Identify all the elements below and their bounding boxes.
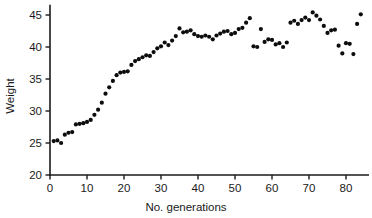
y-tick-label: 20 [29, 169, 42, 181]
data-point [351, 52, 355, 56]
data-point [244, 21, 248, 25]
data-point [126, 69, 130, 73]
x-tick-label: 80 [340, 182, 353, 194]
y-tick-label: 45 [29, 9, 42, 21]
data-point [300, 18, 304, 22]
data-point [55, 138, 59, 142]
data-point [311, 10, 315, 14]
data-point [259, 27, 263, 31]
data-point [218, 31, 222, 35]
data-point [192, 32, 196, 36]
data-point [111, 79, 115, 83]
x-tick-label: 60 [266, 182, 279, 194]
data-point [159, 44, 163, 48]
data-point [318, 17, 322, 21]
y-tick-label: 30 [29, 105, 42, 117]
data-point [322, 24, 326, 28]
data-point [211, 37, 215, 41]
data-point [337, 44, 341, 48]
data-point [307, 18, 311, 22]
data-points [52, 10, 363, 145]
data-point [251, 44, 255, 48]
data-point [285, 40, 289, 44]
x-tick-label: 70 [303, 182, 316, 194]
data-point [303, 15, 307, 19]
data-point [133, 59, 137, 63]
x-tick-label: 40 [192, 182, 205, 194]
data-point [52, 139, 56, 143]
data-point [148, 54, 152, 58]
y-tick-label: 25 [29, 137, 42, 149]
data-point [189, 28, 193, 32]
x-tick-label: 10 [81, 182, 94, 194]
data-point [74, 122, 78, 126]
data-point [226, 29, 230, 33]
data-point [240, 26, 244, 30]
y-tick-labels: 202530354045 [29, 9, 42, 181]
data-point [207, 35, 211, 39]
data-point [200, 35, 204, 39]
data-point [122, 70, 126, 74]
data-point [237, 27, 241, 31]
data-point [314, 14, 318, 18]
data-point [333, 28, 337, 32]
x-axis-title: No. generations [145, 201, 226, 213]
data-point [196, 34, 200, 38]
data-point [229, 32, 233, 36]
data-point [248, 16, 252, 20]
data-point [70, 130, 74, 134]
data-point [266, 37, 270, 41]
data-point [85, 120, 89, 124]
data-point [59, 141, 63, 145]
data-point [170, 39, 174, 43]
data-point [96, 108, 100, 112]
data-point [277, 41, 281, 45]
x-tick-label: 0 [47, 182, 53, 194]
data-point [288, 21, 292, 25]
data-point [103, 92, 107, 96]
data-point [166, 43, 170, 47]
data-point [129, 63, 133, 67]
data-point [203, 33, 207, 37]
x-tick-label: 20 [118, 182, 131, 194]
data-point [329, 28, 333, 32]
data-point [222, 30, 226, 34]
data-point [185, 30, 189, 34]
data-point [100, 101, 104, 105]
data-point [66, 131, 70, 135]
data-point [155, 46, 159, 50]
y-tick-label: 35 [29, 73, 42, 85]
y-tick-label: 40 [29, 41, 42, 53]
data-point [274, 42, 278, 46]
y-axis-title: Weight [4, 77, 16, 113]
data-point [144, 53, 148, 57]
data-point [340, 51, 344, 55]
data-point [325, 31, 329, 35]
x-tick-label: 50 [229, 182, 242, 194]
data-point [233, 31, 237, 35]
axes [50, 6, 368, 175]
tick-marks [46, 15, 347, 180]
data-point [63, 133, 67, 137]
data-point [137, 57, 141, 61]
data-point [292, 19, 296, 23]
data-point [78, 122, 82, 126]
data-point [81, 121, 85, 125]
data-point [107, 85, 111, 89]
data-point [263, 40, 267, 44]
data-point [174, 34, 178, 38]
data-point [92, 113, 96, 117]
plot-area: 01020304050607080 202530354045 No. gener… [0, 0, 372, 218]
data-point [270, 38, 274, 42]
data-point [89, 118, 93, 122]
data-point [177, 26, 181, 30]
data-point [355, 22, 359, 26]
data-point [115, 73, 119, 77]
data-point [214, 33, 218, 37]
x-tick-label: 30 [155, 182, 168, 194]
data-point [118, 71, 122, 75]
data-point [255, 45, 259, 49]
data-point [163, 40, 167, 44]
data-point [152, 50, 156, 54]
data-point [140, 55, 144, 59]
